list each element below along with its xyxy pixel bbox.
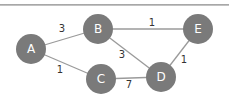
edge-weight-E-D: 1: [181, 54, 187, 65]
node-label: D: [156, 70, 165, 84]
node-label: C: [97, 72, 105, 86]
edge-weight-A-B: 3: [59, 23, 65, 34]
edge-weight-A-C: 1: [57, 64, 63, 75]
graph-diagram: 311371 ABCDE: [0, 0, 229, 104]
node-label: A: [27, 42, 36, 56]
node-E: E: [183, 14, 213, 44]
node-label: B: [94, 22, 102, 36]
node-C: C: [86, 64, 116, 94]
node-D: D: [146, 62, 176, 92]
node-B: B: [83, 14, 113, 44]
edge-weight-B-D: 3: [119, 49, 125, 60]
edge-weight-B-E: 1: [149, 17, 155, 28]
edge-weight-C-D: 7: [126, 79, 132, 90]
node-A: A: [16, 34, 46, 64]
node-label: E: [194, 22, 202, 36]
